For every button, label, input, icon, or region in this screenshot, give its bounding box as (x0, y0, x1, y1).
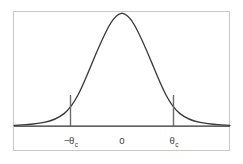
x-tick-label-theta-c: θc (170, 136, 179, 148)
gaussian-curve (14, 13, 230, 125)
subscript-c: c (74, 141, 78, 148)
x-tick-label-zero: 0 (119, 136, 124, 146)
x-tick-label-negative-theta-c: −θc (64, 136, 78, 148)
plot-frame (14, 12, 230, 151)
gaussian-distribution-figure: −θc 0 θc (0, 0, 243, 164)
subscript-c: c (175, 141, 179, 148)
